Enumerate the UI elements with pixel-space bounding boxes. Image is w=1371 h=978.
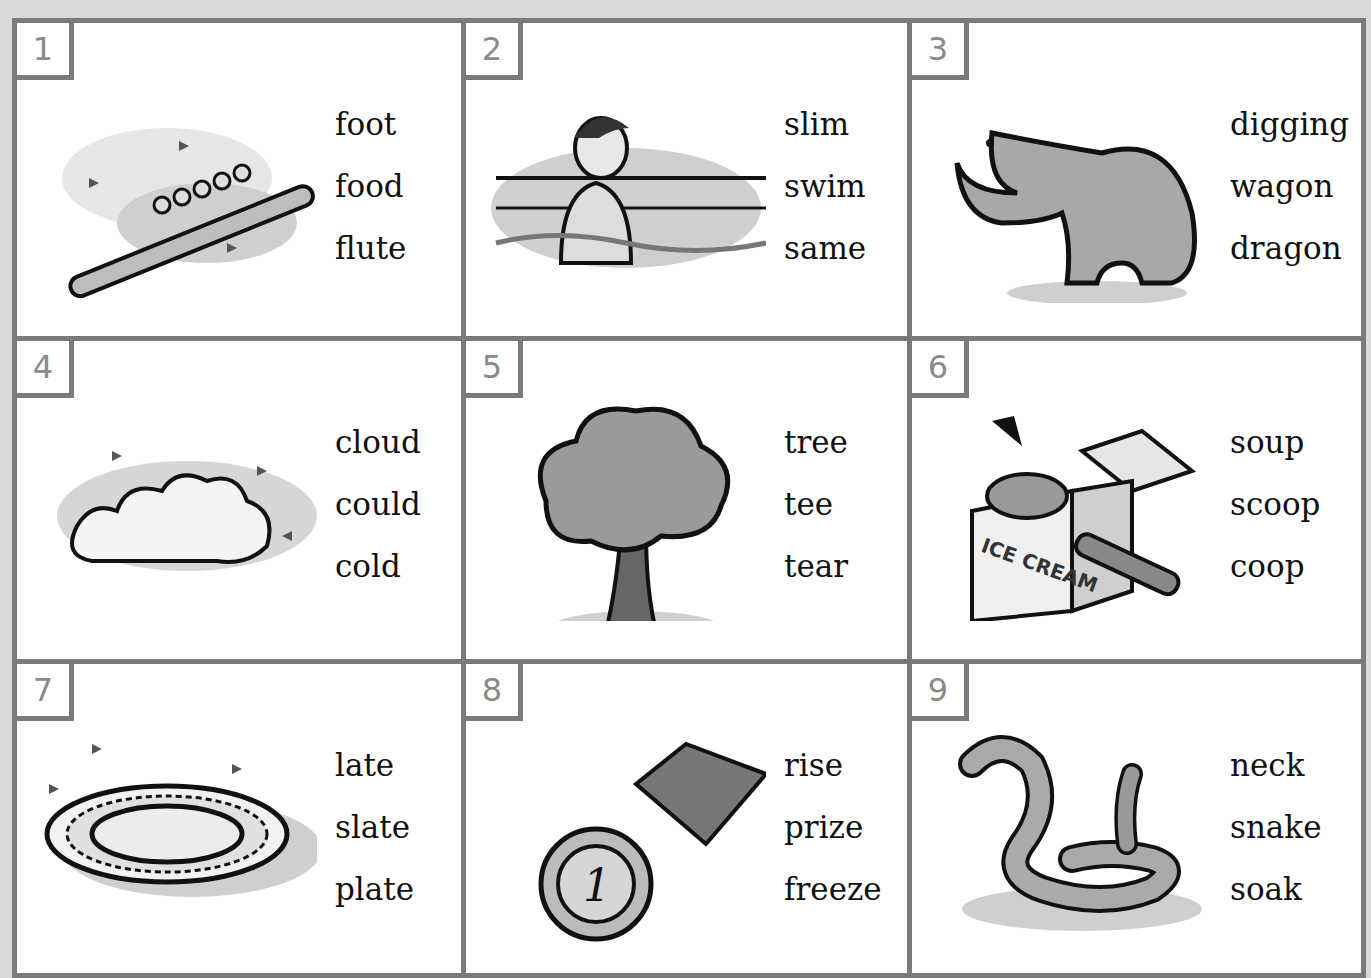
word-option[interactable]: flute [335, 217, 406, 279]
card-number: 8 [466, 664, 523, 721]
ice-cream-scoop-icon: ICE CREAM [932, 401, 1212, 621]
card-number: 2 [466, 23, 523, 80]
swimmer-icon [486, 83, 766, 303]
card-3: 3 digging wagon dragon [912, 23, 1361, 336]
card-1: 1 foot food flute [17, 23, 461, 336]
word-option[interactable]: cloud [335, 411, 421, 473]
card-number: 9 [912, 664, 969, 721]
card-2: 2 slim swim same [466, 23, 907, 336]
word-options: digging wagon dragon [1230, 93, 1349, 279]
word-option[interactable]: snake [1230, 796, 1322, 858]
word-option[interactable]: swim [784, 155, 866, 217]
medal-number: 1 [583, 860, 611, 911]
card-6: 6 ICE CREAM soup scoop coop [912, 341, 1361, 659]
word-option[interactable]: tear [784, 535, 848, 597]
word-options: late slate plate [335, 734, 414, 920]
word-option[interactable]: could [335, 473, 421, 535]
word-option[interactable]: neck [1230, 734, 1322, 796]
word-options: slim swim same [784, 93, 866, 279]
word-option[interactable]: freeze [784, 858, 882, 920]
snake-icon [932, 724, 1212, 944]
cloud-icon [37, 401, 317, 621]
word-option[interactable]: foot [335, 93, 406, 155]
card-9: 9 neck snake soak [912, 664, 1361, 973]
card-number: 6 [912, 341, 969, 398]
word-options: soup scoop coop [1230, 411, 1320, 597]
flute-icon [37, 83, 317, 303]
word-picture-grid: 1 foot food flute 2 slim [12, 18, 1366, 978]
word-option[interactable]: slate [335, 796, 414, 858]
word-option[interactable]: scoop [1230, 473, 1320, 535]
word-option[interactable]: soak [1230, 858, 1322, 920]
word-option[interactable]: prize [784, 796, 882, 858]
word-option[interactable]: slim [784, 93, 866, 155]
word-option[interactable]: digging [1230, 93, 1349, 155]
word-option[interactable]: cold [335, 535, 421, 597]
word-options: tree tee tear [784, 411, 848, 597]
card-7: 7 late slate plate [17, 664, 461, 973]
card-number: 5 [466, 341, 523, 398]
word-options: foot food flute [335, 93, 406, 279]
word-option[interactable]: rise [784, 734, 882, 796]
card-number: 1 [17, 23, 74, 80]
card-number: 7 [17, 664, 74, 721]
word-option[interactable]: soup [1230, 411, 1320, 473]
card-number: 3 [912, 23, 969, 80]
word-option[interactable]: wagon [1230, 155, 1349, 217]
word-option[interactable]: tree [784, 411, 848, 473]
word-option[interactable]: tee [784, 473, 848, 535]
word-options: rise prize freeze [784, 734, 882, 920]
card-8: 8 1 rise prize freeze [466, 664, 907, 973]
dragon-icon [932, 83, 1212, 303]
tree-icon [486, 401, 766, 621]
word-option[interactable]: same [784, 217, 866, 279]
word-option[interactable]: plate [335, 858, 414, 920]
word-option[interactable]: late [335, 734, 414, 796]
word-option[interactable]: coop [1230, 535, 1320, 597]
word-option[interactable]: food [335, 155, 406, 217]
prize-medal-icon: 1 [486, 724, 766, 944]
card-4: 4 cloud could cold [17, 341, 461, 659]
card-5: 5 tree tee tear [466, 341, 907, 659]
card-number: 4 [17, 341, 74, 398]
word-option[interactable]: dragon [1230, 217, 1349, 279]
word-options: cloud could cold [335, 411, 421, 597]
plate-icon [37, 724, 317, 944]
word-options: neck snake soak [1230, 734, 1322, 920]
